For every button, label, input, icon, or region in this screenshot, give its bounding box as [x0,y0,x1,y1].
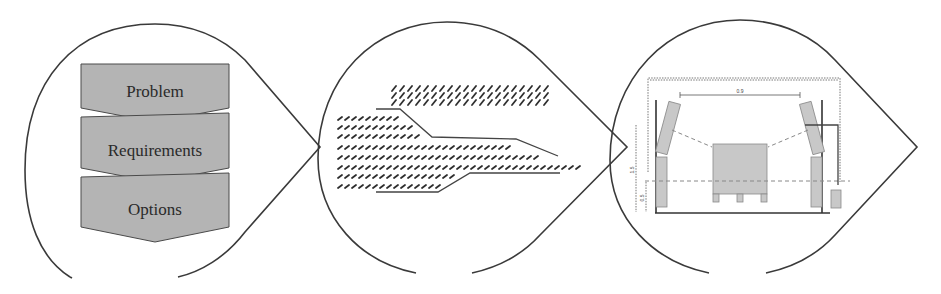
dimension-label-lower: 0.5 [639,194,645,201]
pallet-foot [737,194,743,202]
arrow-upper-edge [376,109,558,156]
hatched-bar [392,86,548,105]
step-options: Options [81,173,229,242]
process-diagram: Problem Requirements Options [0,0,941,294]
step-label: Requirements [108,141,202,160]
unit-C [831,190,841,208]
pallet-load [713,144,767,194]
dimension-label-height: 1.5 [629,166,635,173]
dimension-label-width: 0.9 [737,88,744,94]
panel-technical-drawing: 0.9 1.5 0.5 [610,20,917,273]
step-label: Problem [126,82,184,101]
pallet-foot [713,194,719,202]
pallet-foot [761,194,767,202]
unit-A1 [655,101,680,154]
unit-A2 [656,157,667,207]
panel-concept-sketch [318,22,627,273]
unit-B1 [799,101,824,154]
panel-analysis: Problem Requirements Options [25,24,320,278]
unit-B2 [811,157,822,207]
step-requirements: Requirements [81,113,229,182]
step-label: Options [128,200,182,219]
hatched-arrow-body [338,117,580,188]
teardrop-gap-left-1 [70,277,72,278]
